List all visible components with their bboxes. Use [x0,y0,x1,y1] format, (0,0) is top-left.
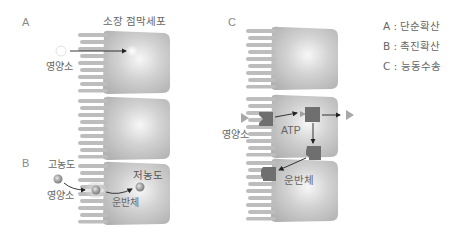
nutrient-molecule-inside [126,45,138,57]
legend-item-a: A : 단순확산 [383,16,441,36]
low-concentration-label: 저농도 [133,170,163,181]
legend-item-b: B : 촉진확산 [383,36,441,56]
legend: A : 단순확산 B : 촉진확산 C : 능동수송 [383,16,441,76]
carrier-protein-recycle [306,146,321,160]
atp-label: ATP [281,125,301,136]
nutrient-triangle-out [346,110,354,120]
carrier-protein-atp [305,107,320,122]
nutrient-label-c: 영양소 [222,130,249,140]
cell-middle-left [78,97,170,160]
intestinal-cells-diagram [0,0,449,240]
cell-bottom-right [246,159,338,222]
panel-label-c: C [228,16,236,28]
carrier-bound-molecule [92,186,101,195]
legend-item-c: C : 능동수송 [383,56,441,76]
cell-top-left [78,31,170,94]
cell-top-right [246,27,338,90]
nutrient-molecule-outside [56,46,66,56]
nutrient-label-a: 영양소 [46,62,73,72]
nutrient-label-b: 영양소 [47,191,74,201]
panel-label-a: A [22,16,29,28]
carrier-protein-return [261,167,276,181]
carrier-label-b: 운반체 [112,198,139,208]
diagram-title: 소장 점막세포 [103,16,166,27]
high-concentration-label: 고농도 [48,160,75,170]
high-concentration-molecule [54,175,63,184]
carrier-label-c: 운반체 [284,175,314,186]
panel-label-b: B [22,157,29,169]
low-concentration-molecule [136,183,145,192]
